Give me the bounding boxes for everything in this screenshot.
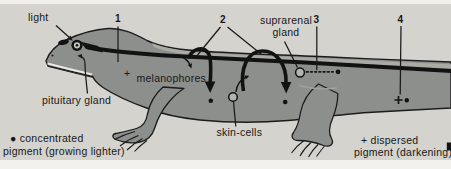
marker-number-2: 2 — [220, 14, 226, 25]
concentrated-pigment-dot-3 — [336, 69, 341, 74]
legend-dispersed-line1: + dispersed — [361, 135, 418, 147]
label-skin-cells: skin-cells — [217, 127, 263, 139]
legend-concentrated-line1: ● concentrated — [10, 133, 83, 145]
eye-icon — [71, 40, 82, 51]
melanophore-dot-1 — [209, 99, 214, 104]
marker-line-4 — [400, 26, 401, 95]
label-pituitary-gland: pituitary gland — [42, 95, 111, 107]
marker-number-1: 1 — [115, 13, 121, 24]
nostril — [52, 55, 54, 57]
legend-concentrated-line2: pigment (growing lighter) — [3, 146, 125, 158]
suprarenal-gland-circle — [296, 68, 305, 77]
lizard-pigment-diagram: light 1 2 3 4 suprarenal gland + melanop… — [0, 0, 451, 169]
marker-number-4: 4 — [398, 14, 404, 25]
skin-cell-circle — [229, 93, 238, 102]
label-light: light — [28, 12, 49, 24]
melanophores-plus-marker: + — [124, 68, 130, 80]
melanophore-dot-2 — [283, 100, 288, 105]
label-suprarenal-gland: suprarenal gland — [252, 15, 320, 39]
label-melanophores: melanophores — [137, 73, 207, 85]
legend-dispersed-line2: pigment (darkening) — [354, 147, 451, 159]
